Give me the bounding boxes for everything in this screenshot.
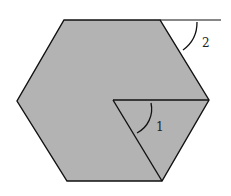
hexagon-diagram: 1 2 [0,0,231,196]
diagram-canvas: 1 2 [0,0,231,196]
angle-2-label: 2 [202,36,210,50]
angle-1-label: 1 [156,120,164,134]
angle-2-arc [183,22,197,50]
